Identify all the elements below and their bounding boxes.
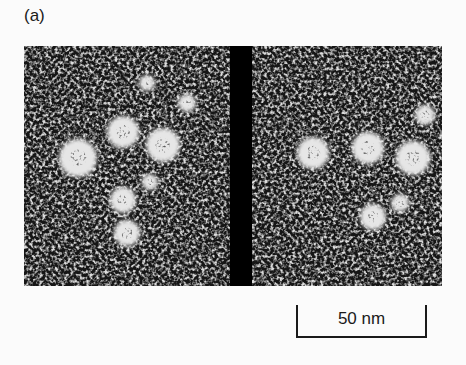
panel-label: (a) (24, 6, 45, 26)
panel-divider (230, 46, 252, 286)
electron-micrograph-figure (24, 46, 442, 286)
right-micrograph-panel (252, 46, 442, 286)
scale-bar-label: 50 nm (298, 309, 425, 329)
left-micrograph-panel (24, 46, 230, 286)
micrograph-svg (24, 46, 442, 286)
scale-bar: 50 nm (296, 305, 427, 338)
